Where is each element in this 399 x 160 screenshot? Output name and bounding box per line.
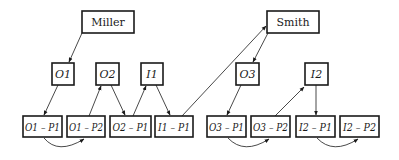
node-label: Miller xyxy=(91,16,125,29)
node-i1: I1 xyxy=(141,63,163,85)
edge-miller-o1 xyxy=(69,33,82,62)
edge-o3p1-o3p2-curved xyxy=(228,138,269,147)
node-label: I2 – P1 xyxy=(298,121,332,134)
node-label: O3 – P1 xyxy=(209,121,244,134)
edge-o1p2-o2 xyxy=(89,86,101,116)
edge-i2p1-i2p2-curved xyxy=(317,138,358,147)
node-label: O3 – P2 xyxy=(253,121,288,134)
node-label: O3 xyxy=(239,68,255,81)
node-label: O1 – P1 xyxy=(25,121,60,134)
node-label: O1 xyxy=(55,68,71,81)
diagram-canvas: Miller Smith O1 O2 I1 O3 I2 O1 – P1 O1 –… xyxy=(0,0,399,160)
node-label: Smith xyxy=(277,16,310,29)
edge-o2-o2p1 xyxy=(111,85,125,115)
node-o2-p1: O2 – P1 xyxy=(110,116,151,137)
node-label: I2 xyxy=(310,68,322,81)
edge-o1p1-o1p2-curved xyxy=(44,138,84,147)
edge-o3-o3p1 xyxy=(227,85,241,115)
node-o1: O1 xyxy=(52,63,74,85)
node-miller: Miller xyxy=(82,11,134,33)
node-o3: O3 xyxy=(236,63,259,85)
node-label: O2 – P1 xyxy=(113,121,149,134)
node-o1-p2: O1 – P2 xyxy=(67,116,105,137)
node-o3-p1: O3 – P1 xyxy=(207,116,246,137)
edge-i1-i1p1 xyxy=(156,85,170,115)
node-smith: Smith xyxy=(267,11,319,33)
node-label: O2 xyxy=(99,68,115,81)
node-label: I1 – P1 xyxy=(157,121,190,134)
node-i2-p2: I2 – P2 xyxy=(340,116,379,137)
node-o3-p2: O3 – P2 xyxy=(251,116,290,137)
node-i2-p1: I2 – P1 xyxy=(296,116,335,137)
edge-o3p2-i2 xyxy=(275,87,304,116)
node-label: O1 – P2 xyxy=(69,121,103,134)
edge-o2p1-i1 xyxy=(133,86,146,116)
node-label: I2 – P2 xyxy=(342,121,376,134)
node-o2: O2 xyxy=(96,63,119,85)
node-o1-p1: O1 – P1 xyxy=(23,116,62,137)
edge-o1-o1p1 xyxy=(44,85,58,115)
node-i1-p1: I1 – P1 xyxy=(155,116,193,137)
node-i2: I2 xyxy=(305,63,328,85)
node-label: I1 xyxy=(145,68,157,81)
